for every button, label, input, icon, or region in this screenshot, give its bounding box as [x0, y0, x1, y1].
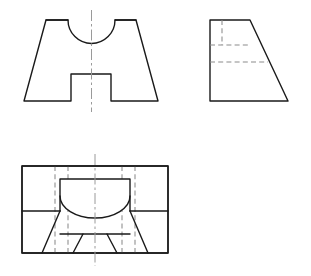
side-view: [210, 20, 288, 101]
drawing-sheet: [0, 0, 311, 276]
front-view: [24, 10, 158, 112]
orthographic-drawing: [0, 0, 311, 276]
top-view: [22, 154, 168, 266]
